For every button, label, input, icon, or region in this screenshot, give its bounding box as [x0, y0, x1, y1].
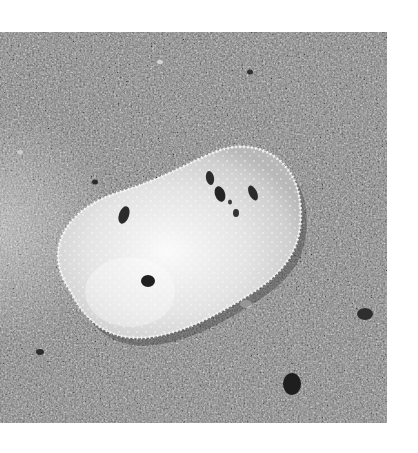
- photo-svg: [0, 32, 387, 423]
- dark-pebble: [283, 373, 301, 395]
- nudibranch-photo: [0, 32, 387, 423]
